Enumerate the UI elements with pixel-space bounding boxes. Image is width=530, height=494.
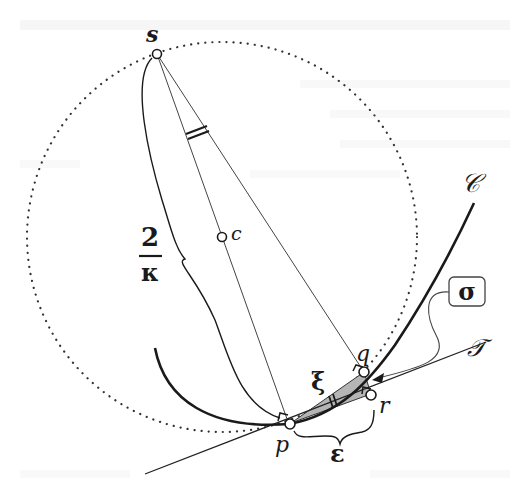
point-r	[366, 390, 376, 400]
label-c: c	[231, 222, 242, 244]
sigma-pointer	[378, 292, 449, 378]
point-q	[359, 367, 369, 377]
point-p	[285, 419, 295, 429]
label-curve-c: 𝒞	[461, 168, 487, 198]
point-s	[153, 50, 162, 59]
line-s-q	[157, 54, 362, 369]
label-fraction-numerator: 2	[141, 222, 159, 252]
background-show-through	[20, 20, 510, 478]
label-xi: ξ	[311, 367, 325, 396]
label-r: r	[379, 393, 391, 418]
sigma-arrowhead	[372, 373, 384, 383]
label-epsilon: ε	[330, 439, 345, 468]
label-q: q	[356, 341, 370, 366]
label-p: p	[275, 432, 289, 457]
label-s: s	[145, 21, 158, 47]
sigma-triangle	[291, 372, 371, 423]
label-fraction-denominator: κ	[141, 258, 159, 287]
osculating-circle-diagram: s c p q r 2 κ ξ ε σ 𝒞 𝒯	[0, 0, 530, 494]
label-tangent-t: 𝒯	[467, 334, 493, 362]
label-sigma: σ	[458, 277, 476, 306]
point-c	[218, 233, 227, 242]
brace-2-over-kappa	[142, 58, 280, 418]
